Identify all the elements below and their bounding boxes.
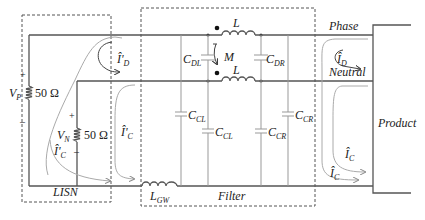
label-ccr-inner: CCR	[268, 125, 286, 141]
label-product: Product	[377, 116, 417, 130]
inductor-top	[222, 31, 255, 35]
label-vp-resistor: 50 Ω	[35, 86, 59, 100]
label-ic-prod-1: ÎC	[344, 147, 355, 163]
label-id-lisn: Î'D	[116, 52, 130, 68]
vp-minus: –	[19, 116, 26, 127]
label-ccl-inner: CCL	[215, 125, 233, 141]
label-neutral: Neutral	[328, 65, 366, 79]
product-box	[373, 25, 411, 193]
label-l-bottom: L	[232, 63, 240, 77]
label-ic-prod-2: ÎC	[329, 166, 340, 182]
label-id-prod: ÎD	[336, 52, 347, 68]
inductor-lgw	[142, 182, 177, 186]
dot-top	[215, 26, 220, 31]
cdl-plates	[201, 55, 215, 60]
ccl-inner-plates	[202, 129, 214, 133]
ccr-outer-plates	[282, 112, 294, 116]
label-phase: Phase	[328, 19, 359, 33]
vn-minus: –	[73, 146, 80, 157]
flow-diff-lisn	[98, 42, 119, 72]
label-vn: VN	[57, 128, 70, 144]
label-l-top: L	[232, 16, 240, 30]
vp-resistor	[26, 86, 32, 100]
dot-bottom	[215, 71, 220, 76]
filter-box	[141, 8, 315, 206]
vn-plus: +	[69, 110, 75, 121]
label-ccr-outer: CCR	[295, 108, 313, 124]
label-ccl-outer: CCL	[188, 108, 206, 124]
ccl-outer-plates	[175, 112, 187, 116]
vn-resistor	[74, 128, 80, 142]
label-cdr: CDR	[266, 52, 285, 68]
mutual-arrow	[214, 44, 217, 64]
ccr-inner-plates	[255, 129, 267, 133]
inductor-bottom	[222, 77, 255, 81]
label-vn-resistor: 50 Ω	[84, 128, 108, 142]
label-lgw: LGW	[149, 189, 170, 205]
label-ic-lisn-2: Î'C	[120, 125, 134, 141]
label-m: M	[223, 50, 235, 64]
vp-plus: +	[20, 69, 26, 80]
emi-filter-diagram: Phase Neutral Product LISN Filter L L M …	[0, 0, 425, 220]
label-vp: VP	[9, 86, 21, 102]
label-filter: Filter	[217, 189, 246, 203]
label-ic-lisn-1: Î'C	[53, 144, 67, 160]
label-lisn: LISN	[52, 185, 79, 199]
label-cdl: CDL	[183, 52, 202, 68]
